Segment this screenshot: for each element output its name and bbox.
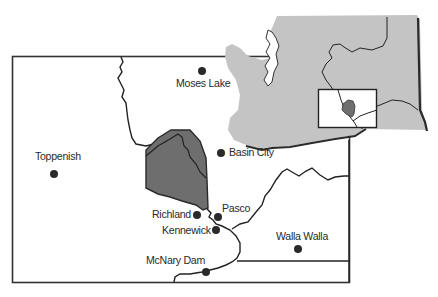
city-dot-toppenish: [50, 170, 58, 178]
washington-state-inset: [225, 15, 427, 150]
city-dot-kennewick: [212, 226, 220, 234]
city-dot-richland: [193, 211, 201, 219]
city-dot-moses-lake: [198, 67, 206, 75]
city-dot-basin-city: [217, 149, 225, 157]
state-outline: [225, 15, 427, 149]
regional-map: [0, 0, 438, 297]
city-dot-walla-walla: [294, 245, 302, 253]
label-mcnary-dam: McNary Dam: [146, 255, 205, 267]
label-richland: Richland: [152, 209, 191, 221]
label-basin-city: Basin City: [229, 147, 274, 159]
city-dot-mcnary-dam: [202, 268, 210, 276]
label-pasco: Pasco: [222, 203, 250, 215]
label-walla-walla: Walla Walla: [276, 231, 328, 243]
label-toppenish: Toppenish: [35, 151, 81, 163]
label-moses-lake: Moses Lake: [176, 78, 230, 90]
city-dot-pasco: [214, 213, 222, 221]
label-kennewick: Kennewick: [162, 225, 211, 237]
